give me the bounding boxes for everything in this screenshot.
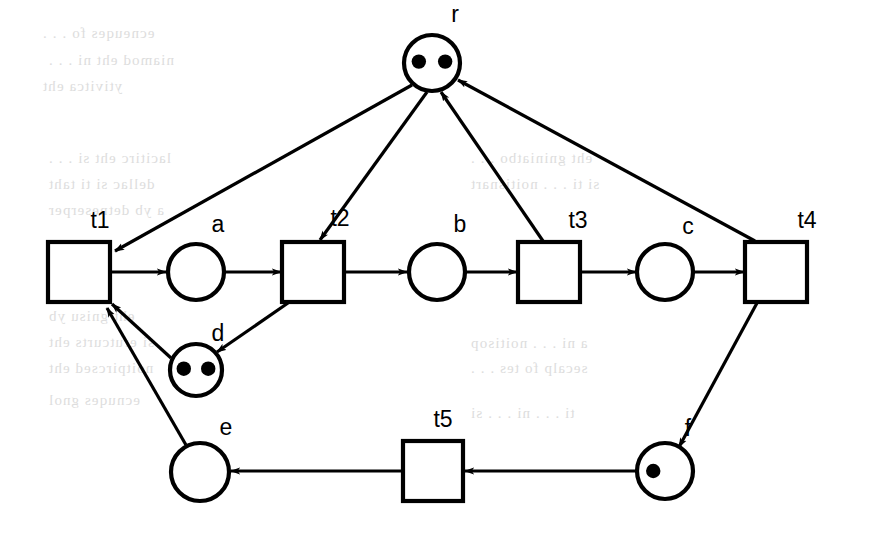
transition-t5[interactable] <box>403 441 463 501</box>
place-c[interactable] <box>637 244 693 300</box>
arc-r-to-t1 <box>115 85 412 251</box>
token-dot <box>646 464 660 478</box>
place-label-b: b <box>454 211 467 237</box>
place-label-c: c <box>682 213 694 239</box>
place-label-e: e <box>220 414 233 440</box>
token-dot <box>438 54 452 68</box>
place-label-a: a <box>212 211 225 237</box>
token-dot <box>412 54 426 68</box>
petri-net-graphic: t1t2t3t4t5rabcdef <box>0 0 873 542</box>
arc-t2-to-d <box>217 303 288 352</box>
place-a[interactable] <box>168 244 224 300</box>
transition-label-t1: t1 <box>90 207 109 233</box>
place-label-f: f <box>685 415 692 441</box>
transition-t1[interactable] <box>48 242 110 302</box>
place-label-r: r <box>451 1 459 27</box>
transition-label-t3: t3 <box>568 207 587 233</box>
transition-t2[interactable] <box>282 242 344 302</box>
place-f[interactable] <box>637 443 693 499</box>
token-dot <box>177 362 191 376</box>
place-label-d: d <box>212 320 225 346</box>
transition-t4[interactable] <box>745 242 807 302</box>
places-group <box>168 35 693 501</box>
transition-label-t5: t5 <box>433 406 452 432</box>
arc-t4-to-r <box>458 80 755 241</box>
place-e[interactable] <box>171 443 229 501</box>
transition-t3[interactable] <box>518 242 580 302</box>
transition-label-t4: t4 <box>797 207 816 233</box>
diagram-canvas: ecneuqes fo . . .niamod eht ni . . .ytiv… <box>0 0 873 542</box>
token-dot <box>201 362 215 376</box>
place-b[interactable] <box>409 244 465 300</box>
transition-label-t2: t2 <box>330 205 349 231</box>
